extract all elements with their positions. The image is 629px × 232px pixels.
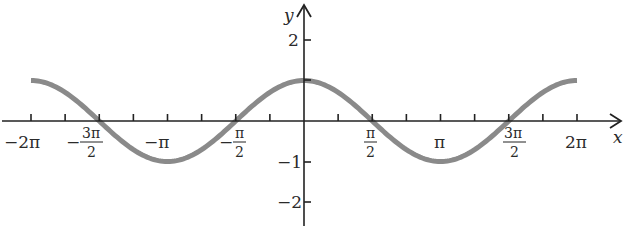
svg-text:2: 2: [235, 144, 244, 160]
svg-text:3π: 3π: [82, 125, 100, 141]
svg-text:2: 2: [366, 144, 375, 160]
x-tick-label-neg-3pi-2: − 3π 2: [66, 125, 103, 160]
svg-text:π: π: [235, 125, 244, 141]
x-tick-label-neg-pi: −π: [144, 132, 169, 152]
x-axis-label: x: [613, 127, 623, 147]
y-tick-label-neg2: −2: [277, 192, 302, 212]
svg-text:2: 2: [510, 144, 519, 160]
x-tick-label-pi-2: π 2: [364, 125, 377, 160]
cosine-chart: y x 2 −1 −2 −2π − 3π 2 −π − π 2 π 2 π 3π…: [0, 0, 629, 232]
x-tick-label-2pi: 2π: [565, 132, 587, 152]
y-axis-label: y: [283, 5, 294, 25]
x-tick-label-pi: π: [434, 132, 445, 152]
x-tick-label-3pi-2: 3π 2: [503, 125, 526, 160]
x-tick-label-neg-2pi: −2π: [4, 132, 40, 152]
svg-text:2: 2: [87, 144, 96, 160]
y-tick-label-neg1: −1: [277, 152, 302, 172]
svg-text:π: π: [366, 125, 375, 141]
svg-text:3π: 3π: [504, 125, 522, 141]
svg-text:−: −: [66, 132, 80, 152]
y-tick-label-2: 2: [288, 30, 299, 50]
svg-text:−: −: [219, 132, 233, 152]
